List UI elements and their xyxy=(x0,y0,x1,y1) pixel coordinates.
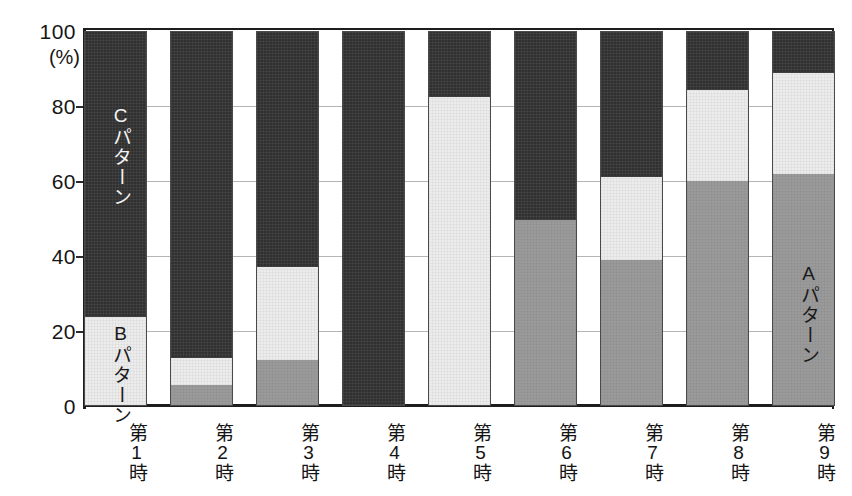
bar-3-segment-a xyxy=(257,360,318,405)
x-tick-label-6: 第6時 xyxy=(514,414,577,490)
x-tick-label-9: 第9時 xyxy=(772,414,835,490)
chart-canvas: 100 (%) 80 60 40 20 0 xyxy=(0,0,852,496)
y-tick-label-20: 20 xyxy=(12,321,76,342)
bar-6-segment-c xyxy=(515,32,576,220)
bar-6-segment-a xyxy=(515,220,576,405)
y-tick-label-40: 40 xyxy=(12,246,76,267)
y-tick-label-0: 0 xyxy=(12,396,76,417)
bar-3-segment-c xyxy=(257,32,318,267)
bar-8-segment-a xyxy=(687,181,748,405)
x-tick-label-3: 第3時 xyxy=(256,414,319,490)
bar-3[interactable] xyxy=(256,31,319,406)
bar-5-segment-b xyxy=(429,97,490,405)
bar-4-segment-c xyxy=(343,32,404,405)
plot-area: Cパターン Bパターン Aパターン xyxy=(84,31,833,406)
y-tick-label-80: 80 xyxy=(12,96,76,117)
x-tick-label-2: 第2時 xyxy=(170,414,233,490)
y-tick-label-60: 60 xyxy=(12,171,76,192)
bar-7[interactable] xyxy=(600,31,663,406)
bar-4[interactable] xyxy=(342,31,405,406)
bar-8[interactable] xyxy=(686,31,749,406)
bar-8-segment-b xyxy=(687,90,748,181)
x-tick-label-4: 第4時 xyxy=(342,414,405,490)
bar-9-segment-c xyxy=(773,32,834,73)
bar-2-segment-a xyxy=(171,385,232,406)
bar-7-segment-c xyxy=(601,32,662,177)
bar-2[interactable] xyxy=(170,31,233,406)
x-tick-label-7: 第7時 xyxy=(600,414,663,490)
bar-5-segment-c xyxy=(429,32,490,97)
bar-7-segment-a xyxy=(601,260,662,405)
plot-top-border xyxy=(83,28,834,30)
annotation-pattern-a: Aパターン xyxy=(788,263,820,365)
bar-7-segment-b xyxy=(601,177,662,259)
annotation-pattern-c: Cパターン xyxy=(100,105,132,207)
y-axis-labels: 100 (%) 80 60 40 20 0 xyxy=(4,0,76,420)
bar-2-segment-c xyxy=(171,32,232,358)
x-tick-label-5: 第5時 xyxy=(428,414,491,490)
bar-3-segment-b xyxy=(257,267,318,360)
y-axis-unit-label: (%) xyxy=(8,47,80,67)
bar-9-segment-b xyxy=(773,73,834,174)
bar-5[interactable] xyxy=(428,31,491,406)
annotation-pattern-b: Bパターン xyxy=(100,323,132,425)
bar-8-segment-c xyxy=(687,32,748,90)
bar-2-segment-b xyxy=(171,358,232,384)
y-tick-label-100: 100 xyxy=(12,21,76,42)
x-tick-label-8: 第8時 xyxy=(686,414,749,490)
bar-6[interactable] xyxy=(514,31,577,406)
x-tick-label-1: 第1時 xyxy=(84,414,147,490)
